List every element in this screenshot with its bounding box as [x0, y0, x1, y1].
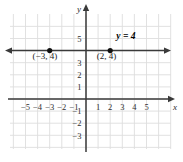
point-coordinate-label: (−3, 4): [33, 51, 58, 61]
y-tick-label: 3: [77, 58, 81, 68]
annotations: (−3, 4)(2, 4)y = 4: [33, 31, 136, 62]
graph-line-arrow-right: [164, 47, 171, 53]
y-tick-label: −3: [72, 131, 81, 141]
y-axis-arrow: [83, 4, 89, 11]
coordinate-plane: −5−4−3−2−1123455321−1−2−3 yx (−3, 4)(2, …: [0, 0, 183, 162]
graph-line-arrow-left: [5, 47, 12, 53]
y-tick-label: 1: [77, 82, 81, 92]
y-tick-label: 5: [77, 34, 81, 44]
gridlines: [10, 14, 171, 149]
y-tick-label: −2: [72, 118, 81, 128]
x-tick-label: 3: [120, 102, 124, 112]
x-tick-label: 5: [144, 102, 148, 112]
x-tick-label: 1: [96, 102, 100, 112]
y-tick-label: −1: [72, 106, 81, 116]
graph-figure: −5−4−3−2−1123455321−1−2−3 yx (−3, 4)(2, …: [0, 0, 183, 162]
y-axis-label: y: [76, 4, 81, 14]
equation-label: y = 4: [115, 31, 135, 41]
y-tick-label: 2: [77, 70, 81, 80]
x-tick-label: −4: [33, 102, 43, 112]
x-tick-label: −3: [45, 102, 54, 112]
x-tick-label: −5: [21, 102, 30, 112]
x-axis-label: x: [172, 102, 177, 112]
x-tick-label: −2: [57, 102, 66, 112]
point-coordinate-label: (2, 4): [97, 51, 117, 61]
x-tick-label: 2: [108, 102, 112, 112]
x-tick-label: 4: [132, 102, 137, 112]
axis-names: yx: [76, 4, 177, 112]
